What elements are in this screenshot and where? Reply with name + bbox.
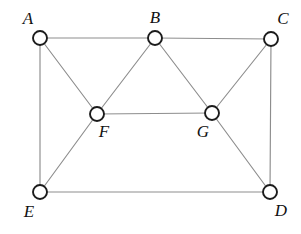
graph-edge-g-d [212,113,270,192]
graph-edge-b-c [155,38,271,39]
graph-edge-c-d [270,39,271,192]
vertices-layer [33,31,278,199]
graph-vertex-g [205,106,219,120]
graph-vertex-d [263,185,277,199]
vertex-label-e: E [23,202,35,221]
vertex-label-g: G [197,122,209,141]
graph-vertex-c [264,32,278,46]
graph-vertex-e [33,185,47,199]
graph-edge-a-f [40,38,97,114]
graph-edge-b-f [97,38,155,114]
graph-edge-c-g [212,39,271,113]
graph-vertex-a [33,31,47,45]
vertex-label-a: A [22,9,34,28]
vertex-label-b: B [150,8,161,27]
vertex-label-d: D [274,201,288,220]
graph-vertex-f [90,107,104,121]
graph-edge-f-g [97,113,212,114]
graph-vertex-b [148,31,162,45]
graph-canvas: ABCFGED [0,0,301,234]
vertex-label-c: C [277,9,289,28]
edges-layer [40,38,271,192]
graph-edge-b-g [155,38,212,113]
graph-edge-f-e [40,114,97,192]
graph-figure: ABCFGED [0,0,301,234]
vertex-label-f: F [98,122,110,141]
